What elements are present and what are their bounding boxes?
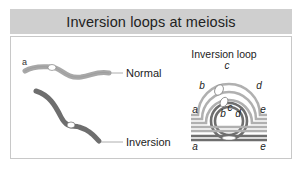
diagram-canvas: a Normal Inversion Inversion loop <box>11 37 291 158</box>
centromere-icon <box>67 122 75 128</box>
normal-end-label: a <box>22 57 27 67</box>
label-outer-d: d <box>256 80 262 91</box>
label-inner-b: b <box>220 108 226 119</box>
label-outer-c: c <box>225 60 230 71</box>
label-bottom-e: e <box>260 141 266 152</box>
diagram-title: Inversion loops at meiosis <box>66 14 235 30</box>
label-bottom-a: a <box>192 141 198 152</box>
label-outer-e: e <box>260 104 266 115</box>
normal-chromosome <box>25 65 123 78</box>
normal-label: Normal <box>126 67 161 79</box>
label-inner-c: c <box>228 102 233 113</box>
centromere-icon <box>48 65 56 71</box>
inversion-label: Inversion <box>126 136 171 148</box>
diagram-header: Inversion loops at meiosis <box>10 9 292 34</box>
pairing-icon <box>222 136 236 140</box>
diagram-panel: a Normal Inversion Inversion loop <box>10 36 292 159</box>
label-outer-b: b <box>199 80 205 91</box>
label-outer-a: a <box>192 104 198 115</box>
inversion-chromosome <box>36 91 123 142</box>
label-inner-d: d <box>235 108 241 119</box>
loop-title: Inversion loop <box>191 48 257 60</box>
